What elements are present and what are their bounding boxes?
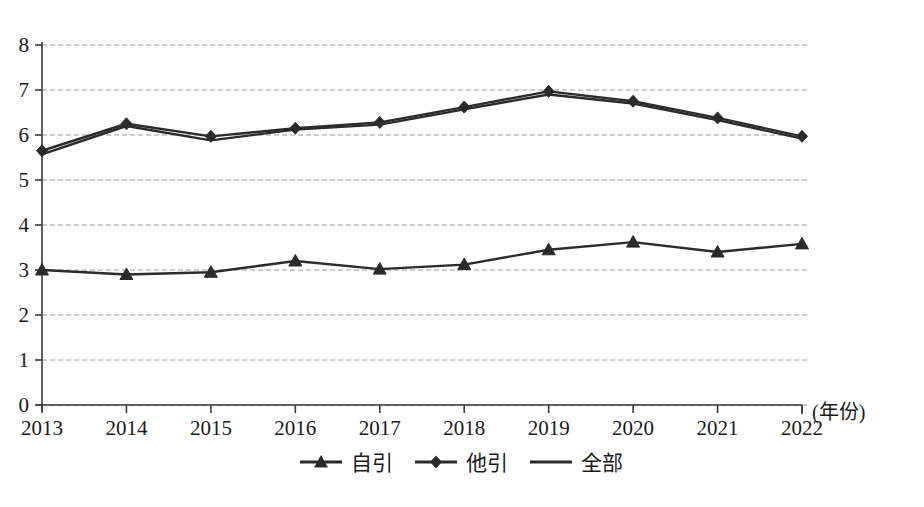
- legend-label-他引: 他引: [466, 451, 508, 475]
- x-tick-label-2015: 2015: [190, 416, 232, 440]
- x-tick-label-2016: 2016: [274, 416, 316, 440]
- chart-canvas: 012345678 201320142015201620172018201920…: [0, 0, 924, 507]
- y-tick-label-3: 3: [19, 258, 30, 282]
- x-tick-label-2021: 2021: [697, 416, 739, 440]
- x-tick-label-2014: 2014: [105, 416, 148, 440]
- y-tick-label-1: 1: [19, 348, 30, 372]
- y-tick-label-5: 5: [19, 168, 30, 192]
- line-chart-figure: 012345678 201320142015201620172018201920…: [0, 0, 924, 507]
- y-tick-label-2: 2: [19, 303, 30, 327]
- y-tick-label-7: 7: [19, 78, 30, 102]
- x-tick-label-2017: 2017: [359, 416, 401, 440]
- y-tick-label-4: 4: [19, 213, 30, 237]
- x-tick-label-2019: 2019: [528, 416, 570, 440]
- x-tick-label-2013: 2013: [21, 416, 63, 440]
- y-tick-label-0: 0: [19, 393, 30, 417]
- y-tick-label-8: 8: [19, 33, 30, 57]
- legend-label-全部: 全部: [581, 451, 623, 475]
- x-axis-unit-label: (年份): [812, 401, 865, 424]
- x-tick-label-2018: 2018: [443, 416, 485, 440]
- legend-label-自引: 自引: [351, 451, 393, 475]
- y-tick-labels-group: 012345678: [19, 33, 30, 417]
- y-tick-label-6: 6: [19, 123, 30, 147]
- x-tick-label-2020: 2020: [612, 416, 654, 440]
